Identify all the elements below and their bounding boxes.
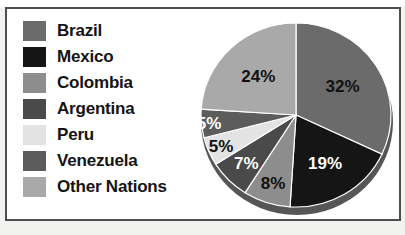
pie-slice-label: 5% [200, 114, 221, 133]
legend-swatch-icon [23, 177, 46, 197]
legend-swatch-icon [23, 73, 46, 93]
chart-legend: BrazilMexicoColombiaArgentinaPeruVenezue… [23, 18, 198, 200]
pie-svg: 32%19%8%7%5%5%24% [200, 21, 396, 217]
legend-swatch-icon [23, 47, 46, 67]
legend-item-label: Peru [57, 125, 94, 145]
pie-slice-label: 8% [261, 174, 286, 193]
legend-item[interactable]: Colombia [23, 70, 198, 96]
pie-slice-label: 5% [209, 137, 234, 156]
legend-swatch-icon [23, 99, 46, 119]
legend-item-label: Venezuela [57, 151, 137, 171]
chart-screenshot: BrazilMexicoColombiaArgentinaPeruVenezue… [0, 0, 405, 235]
cropped-title-strip [0, 0, 405, 7]
legend-swatch-icon [23, 125, 46, 145]
legend-swatch-icon [23, 21, 46, 41]
legend-item-label: Other Nations [57, 177, 167, 197]
legend-item-label: Colombia [57, 73, 133, 93]
legend-item-label: Argentina [57, 99, 135, 119]
legend-item[interactable]: Other Nations [23, 174, 198, 200]
pie-slice-label: 32% [325, 77, 359, 96]
legend-item[interactable]: Peru [23, 122, 198, 148]
legend-item[interactable]: Venezuela [23, 148, 198, 174]
legend-item[interactable]: Brazil [23, 18, 198, 44]
legend-item[interactable]: Argentina [23, 96, 198, 122]
pie-slice-label: 24% [241, 67, 275, 86]
pie-slice-label: 7% [234, 154, 259, 173]
pie-chart: 32%19%8%7%5%5%24% [200, 21, 396, 217]
legend-swatch-icon [23, 151, 46, 171]
pie-slice-label: 19% [308, 154, 342, 173]
legend-item[interactable]: Mexico [23, 44, 198, 70]
chart-plot-area: BrazilMexicoColombiaArgentinaPeruVenezue… [7, 9, 399, 219]
legend-item-label: Brazil [57, 21, 102, 41]
legend-item-label: Mexico [57, 47, 113, 67]
